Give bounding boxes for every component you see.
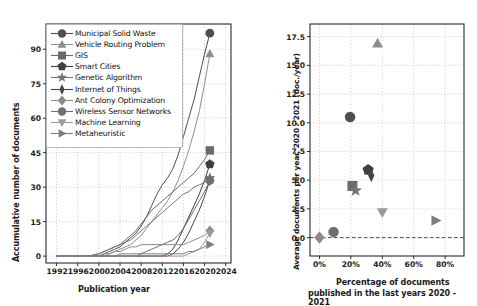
series-line — [57, 178, 210, 256]
end-marker-triangle-up — [205, 49, 214, 57]
xtick-label: 2004 — [110, 267, 130, 276]
legend-item: Metaheuristic — [49, 128, 182, 139]
scatter-point-diamond — [314, 231, 325, 244]
ytick-label: 17.5 — [280, 33, 305, 42]
scatter-point-circle — [328, 227, 339, 238]
xtick-label: 2020 — [195, 267, 215, 276]
panel-average-vs-percentage: Average documents per year, 2020 - 2021 … — [250, 0, 477, 306]
legend-item: GIS — [49, 50, 182, 61]
series-line — [57, 150, 210, 256]
legend-marker — [59, 129, 67, 137]
end-marker-circle — [205, 176, 214, 185]
legend-label: Metaheuristic — [75, 129, 125, 138]
ytick-label: 0 — [20, 252, 41, 261]
xtick-label: 2008 — [131, 267, 151, 276]
xtick-label: 1996 — [68, 267, 88, 276]
scatter-point-circle — [345, 112, 356, 123]
legend-item: Machine Learning — [49, 117, 182, 128]
legend-label: Genetic Algorithm — [75, 73, 142, 82]
legend-marker — [58, 119, 67, 127]
panel-accumulative-documents: Accumulative number of documents Publica… — [0, 0, 250, 306]
end-marker-square — [206, 146, 214, 154]
scatter-point-triangle-up — [372, 38, 383, 48]
legend-item: Ant Colony Optimization — [49, 95, 182, 106]
scatter-points — [314, 38, 441, 244]
legend-marker — [58, 52, 66, 60]
legend-marker — [58, 29, 66, 37]
ytick-label: 5.0 — [280, 176, 305, 185]
legend-marker — [58, 107, 66, 115]
legend-item: Smart Cities — [49, 61, 182, 72]
ytick-label: 15 — [20, 218, 41, 227]
legend-marker — [58, 95, 66, 105]
xtick-label: 80% — [432, 260, 458, 269]
legend-marker — [57, 73, 67, 83]
legend-item: Municipal Solid Waste — [49, 28, 182, 39]
left-x-axis-label: Publication year — [78, 285, 150, 294]
xtick-label: 60% — [401, 260, 427, 269]
ytick-label: 12.5 — [280, 90, 305, 99]
legend-marker — [60, 84, 65, 95]
legend-label: Wireless Sensor Networks — [75, 107, 171, 116]
ytick-label: 90 — [20, 45, 41, 54]
series-legend: Municipal Solid WasteVehicle Routing Pro… — [46, 24, 183, 148]
xtick-label: 2012 — [152, 267, 172, 276]
legend-marker — [58, 62, 67, 71]
end-marker-triangle-right — [206, 240, 214, 249]
right-x-axis-label-line2: published in the last years 2020 - 2021 — [308, 289, 477, 306]
legend-label: Machine Learning — [75, 118, 141, 127]
legend-marker-square-icon — [49, 50, 75, 61]
ytick-label: 60 — [20, 114, 41, 123]
end-marker-pentagon — [205, 159, 214, 168]
xtick-label: 2024 — [216, 267, 236, 276]
ytick-label: 15.0 — [280, 61, 305, 70]
figure-root: Accumulative number of documents Publica… — [0, 0, 477, 306]
legend-label: Ant Colony Optimization — [75, 96, 165, 105]
legend-label: Vehicle Routing Problem — [75, 40, 165, 49]
legend-marker-diamond-icon — [49, 95, 75, 106]
legend-label: GIS — [75, 51, 88, 60]
legend-marker-star-icon — [49, 72, 75, 83]
series-line — [57, 180, 210, 256]
legend-item: Wireless Sensor Networks — [49, 106, 182, 117]
end-marker-circle — [205, 29, 214, 38]
ytick-label: 10.0 — [280, 119, 305, 128]
scatter-point-triangle-down — [377, 208, 388, 218]
ytick-label: 75 — [20, 80, 41, 89]
xtick-label: 1992 — [47, 267, 67, 276]
legend-label: Municipal Solid Waste — [75, 29, 156, 38]
ytick-label: 45 — [20, 149, 41, 158]
legend-marker-triangle-down-icon — [49, 117, 75, 128]
legend-item: Vehicle Routing Problem — [49, 39, 182, 50]
plot-frame — [310, 24, 464, 256]
legend-marker-circle-icon — [49, 106, 75, 117]
xtick-label: 2016 — [173, 267, 193, 276]
ytick-label: 30 — [20, 183, 41, 192]
scatter-point-triangle-right — [431, 215, 441, 226]
legend-marker-pentagon-icon — [49, 61, 75, 72]
legend-marker-thin-diamond-icon — [49, 84, 75, 95]
legend-item: Internet of Things — [49, 83, 182, 94]
right-x-axis-label-line1: Percentage of documents — [336, 278, 449, 287]
legend-marker-circle-icon — [49, 28, 75, 39]
series-line — [57, 180, 210, 256]
legend-marker-triangle-right-icon — [49, 128, 75, 139]
ytick-label: 2.5 — [280, 205, 305, 214]
series-end-markers — [204, 29, 215, 249]
xtick-label: 2000 — [89, 267, 109, 276]
xtick-label: 40% — [369, 260, 395, 269]
ytick-label: 0.0 — [280, 234, 305, 243]
legend-item: Genetic Algorithm — [49, 72, 182, 83]
xtick-label: 20% — [338, 260, 364, 269]
xtick-label: 0% — [306, 260, 332, 269]
legend-label: Smart Cities — [75, 62, 120, 71]
ytick-label: 7.5 — [280, 147, 305, 156]
legend-marker — [58, 40, 67, 48]
legend-marker-triangle-up-icon — [49, 39, 75, 50]
legend-label: Internet of Things — [75, 85, 141, 94]
